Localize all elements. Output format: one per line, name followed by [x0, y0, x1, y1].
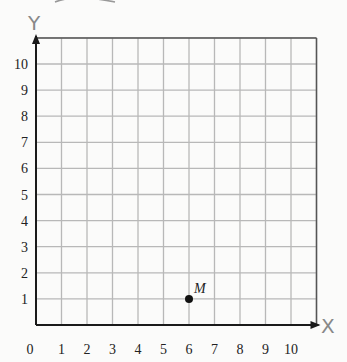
x-tick-label: 9	[262, 342, 269, 357]
y-tick-label: 7	[21, 135, 28, 150]
x-tick-label: 7	[211, 342, 218, 357]
y-tick-label: 9	[21, 83, 28, 98]
y-tick-label: 8	[21, 109, 28, 124]
point-M	[185, 295, 193, 303]
tick-labels: 01234567891012345678910	[14, 57, 298, 357]
axes	[32, 34, 321, 329]
x-tick-label: 2	[84, 342, 91, 357]
y-tick-label: 4	[21, 214, 28, 229]
y-tick-label: 5	[21, 188, 28, 203]
y-tick-label: 10	[14, 57, 28, 72]
grid-lines	[36, 38, 317, 325]
x-tick-label: 10	[284, 342, 298, 357]
y-tick-label: 3	[21, 240, 28, 255]
x-tick-label: 1	[58, 342, 65, 357]
y-axis-label: Y	[27, 11, 41, 35]
y-tick-label: 1	[21, 292, 28, 307]
point-label: M	[193, 281, 207, 296]
y-axis-arrow-icon	[32, 34, 40, 44]
coordinate-grid: 01234567891012345678910 M Y X	[0, 0, 347, 362]
x-tick-label: 0	[27, 342, 34, 357]
x-axis-label: X	[321, 314, 335, 338]
x-tick-label: 4	[135, 342, 142, 357]
x-axis-arrow-icon	[311, 321, 321, 329]
y-tick-label: 2	[21, 266, 28, 281]
data-points: M	[185, 281, 207, 303]
x-tick-label: 5	[160, 342, 167, 357]
x-tick-label: 8	[237, 342, 244, 357]
x-tick-label: 3	[109, 342, 116, 357]
y-tick-label: 6	[21, 161, 28, 176]
decorative-curve	[55, 0, 115, 2]
x-tick-label: 6	[186, 342, 193, 357]
